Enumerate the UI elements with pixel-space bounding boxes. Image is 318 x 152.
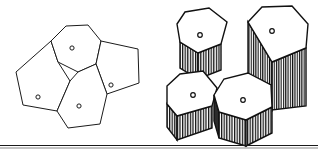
prism-back-right-center-circle-icon [270,29,275,34]
polygon-tessellation-figure [0,0,318,152]
prism-back-left-center-circle-icon [198,33,203,38]
cell-right-center-circle-icon [109,83,113,87]
prism-back-left [177,8,227,79]
prism-front-left-center-circle-icon [191,93,196,98]
cell-left-center-circle-icon [36,95,40,99]
prism-front-center [214,73,272,146]
figure-container [0,0,318,152]
cell-bottom-center-circle-icon [77,104,81,108]
prism-front-center-center-circle-icon [241,98,246,103]
cell-top-center-circle-icon [70,46,74,50]
